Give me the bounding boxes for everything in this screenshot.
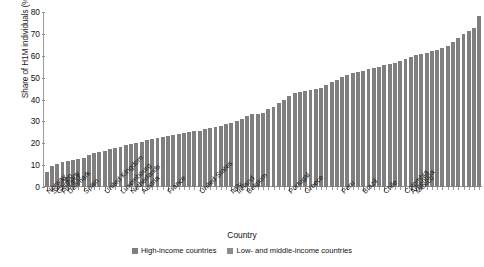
bar <box>287 96 291 187</box>
legend-item: Low- and middle-income countries <box>227 246 352 255</box>
bar <box>435 50 439 187</box>
bar <box>377 67 381 187</box>
legend-item: High-income countries <box>132 246 217 255</box>
bar <box>351 73 355 187</box>
y-axis-tick-labels: 01020304050607080 <box>18 0 40 190</box>
bar <box>192 131 196 187</box>
legend-swatch <box>132 248 138 254</box>
bar <box>319 88 323 187</box>
bar <box>345 75 349 187</box>
y-axis-tick-label: 80 <box>31 8 40 16</box>
bar <box>388 64 392 187</box>
bar <box>314 89 318 187</box>
bar <box>462 34 466 187</box>
bar <box>477 16 481 187</box>
bar <box>372 68 376 187</box>
y-axis-tick-label: 20 <box>31 139 40 147</box>
bar <box>446 46 450 187</box>
bar <box>472 28 476 187</box>
bar <box>414 55 418 187</box>
bar <box>451 42 455 187</box>
bar <box>382 65 386 187</box>
y-axis-tick-label: 50 <box>31 73 40 81</box>
y-axis-tick-label: 40 <box>31 95 40 103</box>
chart-legend: High-income countriesLow- and middle-inc… <box>0 246 484 255</box>
legend-swatch <box>227 248 233 254</box>
bar <box>166 136 170 187</box>
x-axis-title: Country <box>0 230 484 240</box>
bar <box>356 72 360 187</box>
bar <box>240 119 244 187</box>
chart-figure: Share of H1M individuals (%) 01020304050… <box>0 0 484 267</box>
bar <box>367 69 371 187</box>
bar <box>293 93 297 187</box>
bar <box>335 80 339 187</box>
bar <box>235 121 239 187</box>
bar <box>277 103 281 187</box>
bar <box>456 38 460 187</box>
bar <box>361 71 365 187</box>
bar <box>340 77 344 187</box>
bar <box>393 63 397 187</box>
bar <box>409 57 413 187</box>
bar <box>440 48 444 187</box>
y-axis-tick-label: 30 <box>31 117 40 125</box>
plot-area-bars <box>44 12 482 187</box>
bar <box>467 31 471 187</box>
bar <box>282 100 286 188</box>
bar <box>224 124 228 187</box>
bar <box>229 123 233 187</box>
bar <box>309 90 313 187</box>
bar <box>187 132 191 187</box>
bar <box>330 82 334 187</box>
legend-label: High-income countries <box>141 246 217 255</box>
legend-label: Low- and middle-income countries <box>236 246 352 255</box>
bar <box>103 151 107 187</box>
bar <box>272 107 276 188</box>
y-axis-tick-label: 10 <box>31 161 40 169</box>
bar <box>430 51 434 187</box>
x-axis-category-labels: NorwaySwedenGermanyFinlandDenmarkSpainUn… <box>0 190 484 230</box>
y-axis-tick-label: 70 <box>31 30 40 38</box>
bar <box>198 131 202 187</box>
bar <box>404 59 408 187</box>
bar <box>425 53 429 187</box>
y-axis-tick-label: 60 <box>31 52 40 60</box>
bar <box>398 61 402 187</box>
bar <box>324 85 328 187</box>
